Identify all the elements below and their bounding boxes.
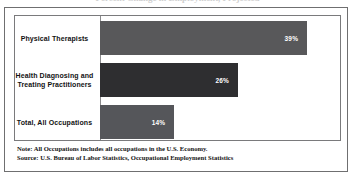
bar-track: 39%: [100, 18, 340, 58]
bar-value-label: 26%: [215, 77, 238, 84]
category-label: Total, All Occupations: [15, 118, 100, 127]
category-label-line: Physical Therapists: [15, 34, 94, 43]
category-label-line: Health Diagnosing and: [15, 71, 94, 80]
bar-row: Physical Therapists 39%: [15, 18, 340, 58]
source-text: Source: U.S. Bureau of Labor Statistics,…: [17, 154, 337, 163]
note-text: Note: All Occupations includes all occup…: [17, 145, 337, 154]
bar: 14%: [100, 105, 174, 139]
category-label-line: Total, All Occupations: [15, 118, 94, 127]
category-label: Health Diagnosing and Treating Practitio…: [15, 71, 100, 89]
footnotes: Note: All Occupations includes all occup…: [17, 145, 337, 162]
bar-row: Total, All Occupations 14%: [15, 102, 340, 142]
bar: 39%: [100, 21, 307, 55]
bar-track: 14%: [100, 102, 340, 142]
category-label-line: Treating Practitioners: [15, 80, 94, 89]
bar: 26%: [100, 63, 238, 97]
bar-row: Health Diagnosing and Treating Practitio…: [15, 60, 340, 100]
bar-value-label: 39%: [285, 35, 308, 42]
plot-inner: Physical Therapists 39% Health Diagnosin…: [15, 16, 340, 140]
clipped-figure-title: Percent Change in Employment, Projected: [0, 0, 355, 3]
figure-frame: Physical Therapists 39% Health Diagnosin…: [4, 7, 348, 172]
category-label: Physical Therapists: [15, 34, 100, 43]
bar-value-label: 14%: [152, 119, 175, 126]
bar-track: 26%: [100, 60, 340, 100]
plot-area: Physical Therapists 39% Health Diagnosin…: [14, 15, 341, 141]
